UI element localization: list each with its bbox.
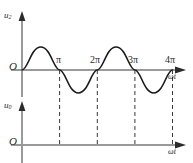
lower-y-axis-label: u0 xyxy=(4,101,11,111)
upper-y-axis-label-sub: 2 xyxy=(9,14,12,20)
upper-y-axis-label: u2 xyxy=(4,11,11,21)
lower-origin-label: O xyxy=(9,136,17,147)
upper-origin-label: O xyxy=(9,61,17,72)
tick-label-pi: π xyxy=(56,55,61,65)
lower-y-axis-arrowhead xyxy=(19,101,26,111)
figure-canvas xyxy=(0,0,193,163)
upper-x-axis-arrowhead xyxy=(175,66,186,73)
waveform-figure: u2 O ωt π 2π 3π 4π u0 O ωt xyxy=(0,0,193,163)
tick-label-4pi: 4π xyxy=(165,55,175,65)
upper-x-axis-label: ωt xyxy=(168,73,176,81)
tick-label-2pi: 2π xyxy=(90,55,100,65)
lower-x-axis-label: ωt xyxy=(168,148,176,156)
dashed-connectors-group xyxy=(60,70,173,145)
lower-x-axis-arrowhead xyxy=(175,141,186,148)
tick-label-3pi: 3π xyxy=(128,55,138,65)
lower-plot-group xyxy=(11,101,186,163)
upper-y-axis-arrowhead xyxy=(19,11,26,21)
lower-y-axis-label-sub: 0 xyxy=(9,104,12,110)
